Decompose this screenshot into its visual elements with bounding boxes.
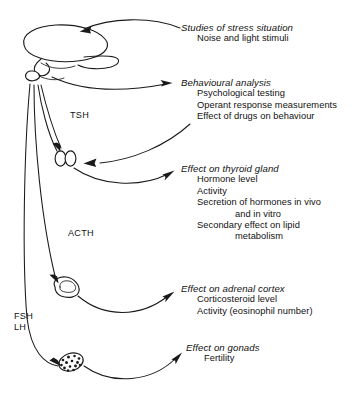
- annotation-thyroid: Effect on thyroid gland Hormone level Ac…: [181, 163, 321, 243]
- annotation-behaviour: Behavioural analysis Psychological testi…: [181, 77, 337, 123]
- hormone-label-acth: ACTH: [68, 228, 94, 239]
- annotation-thyroid-item-2: Secretion of hormones in vivo: [181, 197, 321, 208]
- annotation-text-layer: TSH ACTH FSH LH Studies of stress situat…: [0, 0, 352, 404]
- diagram-root: TSH ACTH FSH LH Studies of stress situat…: [0, 0, 352, 404]
- annotation-behaviour-item-1: Operant response measurements: [181, 100, 337, 111]
- annotation-behaviour-heading: Behavioural analysis: [181, 77, 337, 88]
- annotation-adrenal-item-0: Corticosteroid level: [181, 294, 313, 305]
- annotation-gonads: Effect on gonads Fertility: [186, 342, 260, 365]
- annotation-gonads-item-0: Fertility: [186, 353, 260, 364]
- annotation-adrenal-heading: Effect on adrenal cortex: [181, 283, 313, 294]
- annotation-stress-heading: Studies of stress situation: [181, 22, 293, 33]
- annotation-thyroid-heading: Effect on thyroid gland: [181, 163, 321, 174]
- annotation-stress-item-0: Noise and light stimuli: [181, 33, 293, 44]
- annotation-adrenal: Effect on adrenal cortex Corticosteroid …: [181, 283, 313, 317]
- hormone-label-fsh-lh: FSH LH: [14, 311, 33, 332]
- annotation-gonads-heading: Effect on gonads: [186, 342, 260, 353]
- annotation-behaviour-item-2: Effect of drugs on behaviour: [181, 111, 337, 122]
- annotation-stress: Studies of stress situation Noise and li…: [181, 22, 293, 45]
- annotation-thyroid-item-4: Secondary effect on lipid: [181, 220, 321, 231]
- annotation-thyroid-item-3: and in vitro: [181, 209, 321, 220]
- annotation-adrenal-item-1: Activity (eosinophil number): [181, 306, 313, 317]
- hormone-label-tsh: TSH: [70, 110, 89, 121]
- annotation-thyroid-item-5: metabolism: [181, 231, 321, 242]
- annotation-thyroid-item-1: Activity: [181, 186, 321, 197]
- annotation-thyroid-item-0: Hormone level: [181, 174, 321, 185]
- annotation-behaviour-item-0: Psychological testing: [181, 88, 337, 99]
